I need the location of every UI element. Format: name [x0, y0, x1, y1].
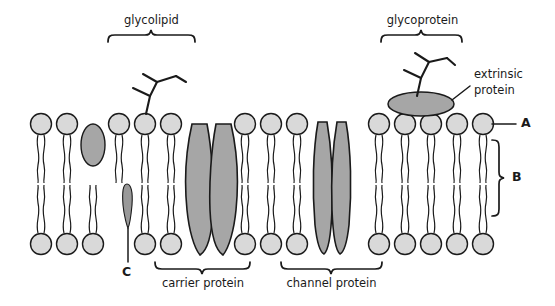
- bottom-leaflet-heads: [31, 234, 494, 255]
- extrinsic-protein-shape: [388, 92, 454, 116]
- membrane-diagram: glycolipid glycoprotein extrinsic protei…: [0, 0, 555, 306]
- marker-a-label: A: [521, 116, 531, 130]
- glycolipid-label: glycolipid: [102, 14, 201, 27]
- channel-protein-shape: [313, 122, 350, 254]
- extrinsic-protein-label-line1: extrinsic: [474, 68, 523, 81]
- carrier-protein-brace: [155, 262, 250, 274]
- carrier-protein-label: carrier protein: [148, 277, 258, 290]
- glycolipid-branches: [133, 74, 186, 114]
- marker-b-label: B: [512, 170, 522, 184]
- extrinsic-protein-label-line2: protein: [474, 84, 515, 97]
- channel-protein-brace: [281, 262, 382, 274]
- glycoprotein-brace: [381, 30, 462, 42]
- glycoprotein-label: glycoprotein: [373, 14, 472, 27]
- membrane-diagram-svg: [0, 0, 555, 306]
- c-marker-lipid: [123, 184, 133, 228]
- b-brace: [492, 140, 504, 216]
- marker-c-label: C: [122, 265, 131, 279]
- glycolipid-brace: [108, 30, 195, 42]
- channel-protein-label: channel protein: [275, 277, 388, 290]
- bottom-leaflet: [31, 184, 494, 255]
- carrier-protein-shape: [186, 124, 238, 255]
- bottom-leaflet-tails: [37, 185, 487, 233]
- top-leaflet: [31, 114, 494, 184]
- glycoprotein-branches: [404, 53, 455, 96]
- embedded-lipid-oval: [81, 124, 105, 166]
